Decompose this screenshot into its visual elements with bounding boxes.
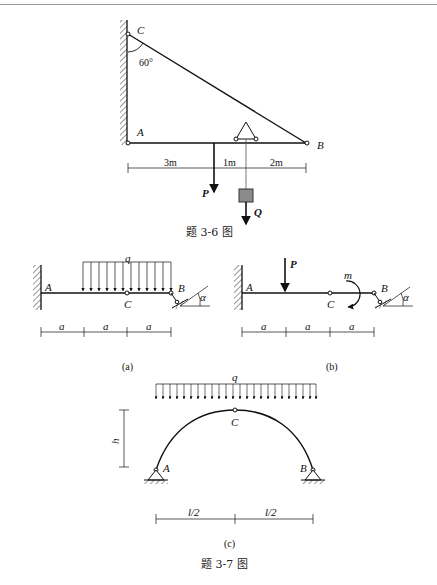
distributed-load-a [83, 262, 171, 291]
weight-block [239, 189, 253, 202]
dim-3m: 3m [164, 157, 177, 168]
label-a-c: A [162, 462, 170, 474]
angle-arc [128, 43, 143, 52]
subfigure-tag-c: (c) [224, 538, 235, 550]
dim-a-1: a [59, 320, 65, 332]
label-angle-60: 60° [139, 57, 153, 68]
label-alpha-b: α [403, 291, 409, 303]
label-b-b: B [381, 282, 388, 294]
dim-b-1: a [261, 320, 267, 332]
label-c: C [137, 24, 145, 36]
dim-b-2: a [305, 320, 311, 332]
dim-a-3: a [146, 320, 152, 332]
label-q-c: q [232, 371, 238, 383]
figure-3-7a: q A C B α a a a (a) [33, 252, 210, 373]
pulley-wheel-left [234, 137, 238, 141]
dimension-line-c [156, 514, 313, 524]
hinge-a [126, 141, 130, 145]
pulley-wheel-right [254, 137, 258, 141]
subfigure-tag-b: (b) [326, 361, 338, 373]
wall-hatch [120, 20, 127, 145]
moment-m-arrow [346, 281, 360, 307]
hinge-b [305, 141, 309, 145]
label-b: B [317, 139, 324, 151]
label-q: Q [254, 206, 262, 218]
label-alpha-a: α [200, 291, 206, 303]
dim-l-half-1: l/2 [188, 506, 200, 518]
dim-a-2: a [103, 320, 109, 332]
subfigure-tag-a: (a) [122, 361, 133, 373]
dim-2m: 2m [270, 157, 283, 168]
hinge-c [126, 32, 130, 36]
dim-b-3: a [349, 320, 355, 332]
label-a-b: A [245, 281, 253, 293]
dimension-height-h [119, 410, 129, 467]
distributed-load-c [156, 384, 316, 399]
label-q-a: q [125, 252, 131, 264]
label-c-b: C [327, 298, 335, 310]
label-b-a: B [178, 282, 185, 294]
caption-3-6: 题 3-6 图 [186, 226, 233, 239]
dim-1m: 1m [223, 157, 236, 168]
label-c-c: C [231, 416, 239, 428]
label-c-a: C [124, 298, 132, 310]
figure-3-6: C 60° A B 3m 1m 2m P Q 题 3-6 图 [120, 20, 324, 239]
engineering-diagrams: C 60° A B 3m 1m 2m P Q 题 3-6 图 [0, 0, 437, 585]
label-p-b: P [290, 258, 297, 270]
figure-3-7c: q C A B h l/2 l/2 (c) 题 3-7 图 [109, 371, 325, 571]
pulley-triangle [236, 122, 256, 139]
label-a: A [136, 126, 144, 138]
label-h: h [109, 438, 121, 444]
figure-3-7b: P m A C B α a a a (b) [234, 258, 413, 373]
label-b-c: B [300, 462, 307, 474]
member-cb [128, 34, 306, 143]
label-a-a: A [44, 281, 52, 293]
dim-l-half-2: l/2 [265, 506, 277, 518]
label-p: P [202, 187, 209, 199]
caption-3-7: 题 3-7 图 [201, 558, 248, 571]
label-m-b: m [344, 269, 352, 281]
